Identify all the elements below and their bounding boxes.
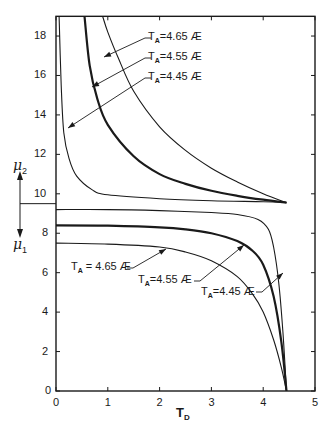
- curve-mu2: [85, 16, 287, 202]
- annotation-label-upper: TA=4.45 Æ: [148, 71, 202, 82]
- x-tick-label: 2: [157, 397, 163, 408]
- arrowhead-icon: [159, 249, 166, 255]
- y-tick-label: 8: [42, 227, 48, 238]
- annotation-sub: A: [155, 37, 160, 44]
- annotation-value: =4.65 Æ: [160, 30, 202, 42]
- annotation-value: =4.55 Æ: [160, 50, 202, 62]
- y-tick-label: 12: [34, 148, 46, 159]
- curve-mu2: [59, 16, 286, 202]
- annotation-main: T: [138, 273, 145, 285]
- annotation-label-lower: TA=4.45 Æ: [201, 286, 255, 297]
- curve-mu1: [56, 210, 287, 391]
- x-tick-label: 0: [53, 397, 59, 408]
- annotation-value: =4.45 Æ: [213, 285, 255, 297]
- annotation-sub: A: [155, 57, 160, 64]
- annotation-label-upper: TA=4.55 Æ: [148, 51, 202, 62]
- annotation-label-upper: TA=4.65 Æ: [148, 31, 202, 42]
- annotation-value: =4.45 Æ: [160, 70, 202, 82]
- annotation-main: T: [201, 285, 208, 297]
- annotation-label-lower: TA=4.55 Æ: [138, 274, 192, 285]
- mu2-main: μ: [13, 157, 22, 173]
- mu1-sub: 1: [22, 245, 27, 255]
- y-axis-title-lower: μ1: [13, 237, 27, 251]
- leader-line: [200, 245, 244, 281]
- mu1-main: μ: [13, 236, 22, 252]
- y-tick-label: 10: [34, 188, 46, 199]
- x-tick-label: 5: [312, 397, 318, 408]
- y-tick-label: 18: [34, 30, 46, 41]
- y-tick-label: 4: [42, 306, 48, 317]
- annotation-value: = 4.65 Æ: [83, 260, 131, 272]
- curve-mu1: [56, 225, 287, 391]
- annotation-sub: A: [145, 280, 150, 287]
- x-tick-label: 4: [260, 397, 266, 408]
- curve-mu2: [103, 16, 287, 202]
- annotation-main: T: [148, 30, 155, 42]
- y-tick-label: 16: [34, 69, 46, 80]
- arrowhead-icon: [104, 52, 111, 57]
- x-axis-title: TD: [176, 406, 190, 419]
- mu-direction-arrow: [17, 171, 23, 238]
- annotation-label-lower: TA = 4.65 Æ: [71, 261, 131, 272]
- y-tick-label: 2: [42, 346, 48, 357]
- y-tick-label: 0: [45, 385, 51, 396]
- annotation-sub: A: [78, 267, 83, 274]
- x-axis-title-sub: D: [184, 413, 190, 422]
- arrowhead-icon: [68, 122, 75, 128]
- annotation-main: T: [148, 50, 155, 62]
- annotation-sub: A: [208, 292, 213, 299]
- x-tick-label: 3: [208, 397, 214, 408]
- y-axis-title-upper: μ2: [13, 158, 27, 172]
- annotation-value: =4.55 Æ: [150, 273, 192, 285]
- y-tick-label: 14: [34, 109, 46, 120]
- y-tick-label: 6: [42, 267, 48, 278]
- annotation-main: T: [71, 260, 78, 272]
- x-tick-label: 1: [105, 397, 111, 408]
- annotation-main: T: [148, 70, 155, 82]
- chart-canvas: [0, 0, 330, 434]
- mu2-sub: 2: [22, 166, 27, 176]
- x-axis-title-main: T: [176, 405, 184, 420]
- annotation-sub: A: [155, 77, 160, 84]
